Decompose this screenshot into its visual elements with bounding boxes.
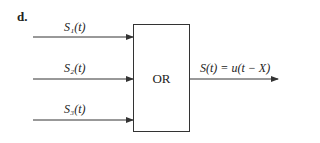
output-label: S(t) = u(t − X) <box>200 61 270 76</box>
input-label-3: S₃(t) <box>64 102 86 117</box>
gate-label: OR <box>134 71 189 87</box>
input-label-2: S₂(t) <box>64 61 86 76</box>
or-gate-box: OR <box>133 24 190 132</box>
input-label-1: S₁(t) <box>64 20 86 35</box>
